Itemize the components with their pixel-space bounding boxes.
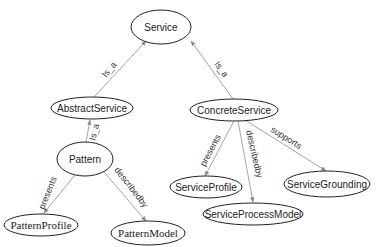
edge-concreteservice-serviceprofile: presents (198, 121, 234, 176)
node-serviceprofile[interactable]: ServiceProfile (170, 176, 242, 198)
edge-abstractservice-service: Is_a (94, 41, 146, 97)
ontology-diagram: Is_a Is_a Is_a presents describedby pres… (0, 0, 376, 247)
edge-pattern-abstractservice: Is_a (86, 120, 101, 142)
node-label: ServiceGrounding (287, 179, 367, 190)
node-servicegrounding[interactable]: ServiceGrounding (284, 171, 370, 197)
edge-label-describedby: describedby (112, 165, 150, 210)
edge-label-is-a: Is_a (100, 60, 119, 79)
node-label: ServiceProcessModel (205, 209, 302, 220)
edge-label-presents: presents (37, 175, 59, 211)
edge-label-supports: supports (269, 124, 304, 151)
edge-label-is-a: Is_a (212, 59, 230, 79)
node-label: ServiceProfile (175, 182, 237, 193)
edge-concreteservice-serviceprocessmodel: describedby (238, 121, 265, 202)
edge-concreteservice-service: Is_a (191, 41, 233, 99)
edge-pattern-patternmodel: describedby (104, 165, 150, 221)
nodes: Service AbstractService ConcreteService … (4, 10, 370, 245)
node-serviceprocessmodel[interactable]: ServiceProcessModel (203, 203, 303, 225)
node-pattern[interactable]: Pattern (57, 142, 113, 176)
node-label: AbstractService (57, 103, 127, 114)
node-patternprofile[interactable]: PatternProfile (4, 214, 78, 236)
node-label: Pattern (69, 154, 101, 165)
edge-pattern-patternprofile: presents (37, 175, 75, 213)
node-concreteservice[interactable]: ConcreteService (190, 99, 278, 121)
node-label: PatternProfile (10, 219, 71, 231)
node-label: ConcreteService (197, 105, 271, 116)
node-label: Service (144, 22, 178, 33)
node-patternmodel[interactable]: PatternModel (111, 221, 185, 245)
node-abstractservice[interactable]: AbstractService (51, 97, 133, 119)
node-service[interactable]: Service (131, 10, 191, 44)
edge-label-presents: presents (198, 132, 223, 168)
node-label: PatternModel (118, 227, 178, 239)
